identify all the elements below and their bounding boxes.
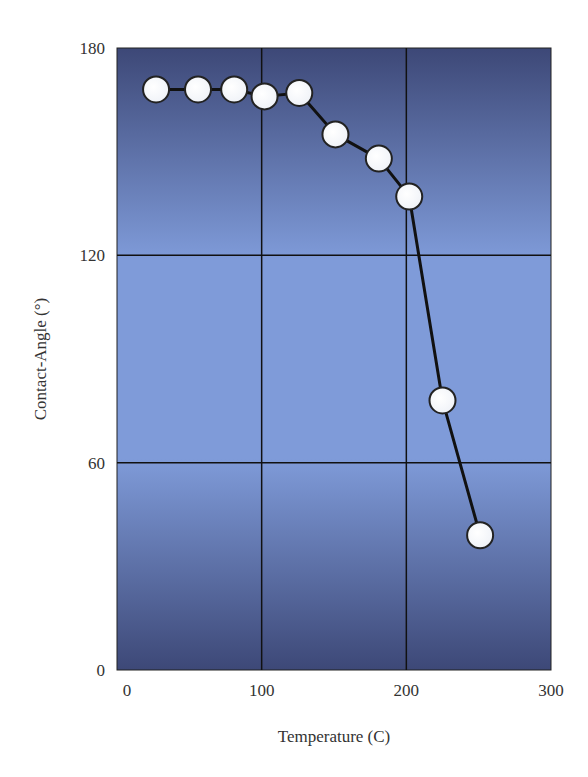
data-point-marker (322, 121, 348, 147)
y-tick-label: 180 (80, 39, 106, 58)
data-point-marker (467, 522, 493, 548)
data-point-marker (366, 146, 392, 172)
x-axis-title: Temperature (C) (278, 727, 391, 746)
data-point-marker (185, 76, 211, 102)
y-tick-label: 0 (97, 661, 106, 680)
x-axis-ticks: 0100200300 (123, 681, 564, 700)
x-tick-label: 100 (249, 681, 275, 700)
data-point-marker (252, 83, 278, 109)
x-tick-label: 200 (394, 681, 420, 700)
y-axis-title: Contact-Angle (°) (31, 298, 50, 420)
data-point-marker (430, 387, 456, 413)
y-tick-label: 60 (88, 454, 105, 473)
y-axis-ticks: 060120180 (80, 39, 106, 680)
contact-angle-chart: 060120180 0100200300 Contact-Angle (°) T… (0, 0, 588, 777)
data-point-marker (143, 76, 169, 102)
x-tick-label: 300 (538, 681, 564, 700)
y-tick-label: 120 (80, 246, 106, 265)
data-point-marker (221, 76, 247, 102)
data-point-marker (396, 184, 422, 210)
data-point-marker (286, 80, 312, 106)
x-tick-label: 0 (123, 681, 132, 700)
